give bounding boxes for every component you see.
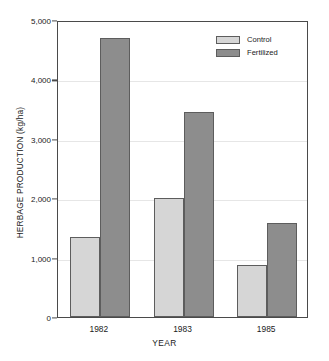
bar-fertilized-1982 (100, 38, 130, 317)
bar-control-1982 (70, 237, 100, 317)
plot-area (57, 21, 308, 318)
y-tick-label: 0 (7, 314, 51, 323)
y-axis-title: HERBAGE PRODUCTION (kg/ha) (16, 73, 25, 273)
bar-fertilized-1983 (184, 112, 214, 317)
bar-control-1985 (237, 265, 267, 317)
legend-label: Control (247, 35, 271, 44)
legend-label: Fertilized (247, 48, 278, 57)
y-tick-label: 3,000 (7, 135, 51, 144)
herbage-production-bar-chart: HERBAGE PRODUCTION (kg/ha) 01,0002,0003,… (0, 0, 329, 361)
y-tick-label: 2,000 (7, 195, 51, 204)
y-tick-label: 5,000 (7, 17, 51, 26)
bar-control-1983 (154, 198, 184, 317)
legend-item: Control (216, 34, 308, 45)
legend-swatch-icon (216, 36, 240, 44)
x-tick-label: 1982 (64, 324, 134, 334)
gridline (58, 81, 307, 82)
legend-item: Fertilized (216, 47, 308, 58)
x-axis-title: YEAR (0, 338, 329, 348)
x-tick-label: 1985 (231, 324, 301, 334)
y-tick-label: 1,000 (7, 254, 51, 263)
chart-legend: ControlFertilized (216, 34, 308, 60)
y-tick-label: 4,000 (7, 76, 51, 85)
bar-fertilized-1985 (267, 223, 297, 317)
legend-swatch-icon (216, 49, 240, 57)
x-tick-label: 1983 (148, 324, 218, 334)
gridline (58, 141, 307, 142)
